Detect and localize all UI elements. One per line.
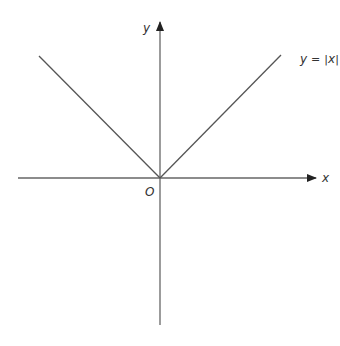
graph-left-branch <box>39 56 160 178</box>
function-label-eq: = <box>311 53 320 66</box>
function-label-y: y <box>299 52 308 66</box>
function-label-bar-right: | <box>335 53 339 66</box>
graph-of-absolute-value: y x O y = |x| <box>0 0 340 346</box>
graph-right-branch <box>160 55 281 178</box>
function-label: y = |x| <box>299 49 339 66</box>
origin-label: O <box>145 185 154 199</box>
y-axis-label: y <box>142 21 151 35</box>
x-axis-label: x <box>321 171 330 185</box>
